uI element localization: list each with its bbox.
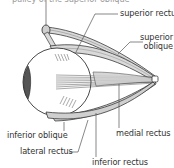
diagram-graphic	[0, 0, 174, 168]
label-trochlea: pulley of the superior oblique	[12, 0, 129, 4]
leader-superior-oblique	[118, 42, 143, 54]
label-superior-rectus: superior rectus	[120, 9, 174, 18]
label-lateral-rectus: lateral rectus	[20, 147, 73, 156]
label-superior-oblique-line2: oblique	[144, 42, 173, 51]
label-inferior-oblique: inferior oblique	[7, 131, 68, 140]
label-medial-rectus: medial rectus	[116, 129, 170, 138]
label-inferior-rectus: inferior rectus	[92, 158, 148, 167]
common-tendinous-ring	[152, 76, 158, 82]
eye-muscles-diagram: pulley of the superior oblique superior …	[0, 0, 174, 168]
